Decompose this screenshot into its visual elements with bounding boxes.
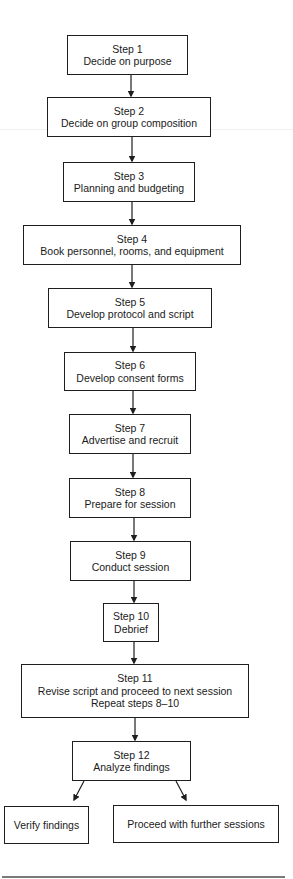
step-12-label: Step 12 xyxy=(113,749,149,762)
step-4-text: Book personnel, rooms, and equipment xyxy=(40,245,223,258)
step-2-label: Step 2 xyxy=(114,105,144,118)
outcome-proceed-text: Proceed with further sessions xyxy=(127,818,265,831)
step-6-label: Step 6 xyxy=(115,359,145,372)
step-2-text: Decide on group composition xyxy=(61,117,197,130)
step-10-box: Step 10 Debrief xyxy=(103,603,159,642)
step-5-box: Step 5 Develop protocol and script xyxy=(48,288,212,328)
step-1-text: Decide on purpose xyxy=(83,55,171,68)
step-5-label: Step 5 xyxy=(115,296,145,309)
outcome-verify-box: Verify findings xyxy=(4,806,89,844)
step-1-label: Step 1 xyxy=(112,43,142,56)
step-10-label: Step 10 xyxy=(113,610,149,623)
step-8-box: Step 8 Prepare for session xyxy=(69,478,191,518)
step-11-text: Revise script and proceed to next sessio… xyxy=(38,685,232,698)
step-12-text: Analyze findings xyxy=(93,761,169,774)
step-9-text: Conduct session xyxy=(92,561,170,574)
step-8-label: Step 8 xyxy=(115,486,145,499)
step-4-label: Step 4 xyxy=(117,233,147,246)
step-3-label: Step 3 xyxy=(114,170,144,183)
step-9-box: Step 9 Conduct session xyxy=(70,541,191,581)
step-8-text: Prepare for session xyxy=(84,498,175,511)
step-7-box: Step 7 Advertise and recruit xyxy=(69,414,191,454)
step-9-label: Step 9 xyxy=(115,549,145,562)
step-3-box: Step 3 Planning and budgeting xyxy=(63,162,195,202)
step-10-text: Debrief xyxy=(114,623,148,636)
arrow-12-verify xyxy=(74,781,84,800)
step-11-text-2: Repeat steps 8–10 xyxy=(91,697,179,710)
step-2-box: Step 2 Decide on group composition xyxy=(47,97,211,137)
step-5-text: Develop protocol and script xyxy=(66,308,193,321)
outcome-verify-text: Verify findings xyxy=(14,819,79,832)
step-11-label: Step 11 xyxy=(117,672,152,685)
bottom-rule-divider xyxy=(2,876,285,878)
step-7-label: Step 7 xyxy=(115,422,145,435)
step-3-text: Planning and budgeting xyxy=(74,182,184,195)
step-1-box: Step 1 Decide on purpose xyxy=(67,35,188,75)
step-7-text: Advertise and recruit xyxy=(82,434,178,447)
step-4-box: Step 4 Book personnel, rooms, and equipm… xyxy=(23,225,241,265)
step-6-box: Step 6 Develop consent forms xyxy=(64,352,196,391)
arrow-12-proceed xyxy=(176,781,186,800)
step-11-box: Step 11 Revise script and proceed to nex… xyxy=(21,664,249,718)
step-12-box: Step 12 Analyze findings xyxy=(72,741,191,781)
step-6-text: Develop consent forms xyxy=(76,372,183,385)
outcome-proceed-box: Proceed with further sessions xyxy=(113,805,279,843)
